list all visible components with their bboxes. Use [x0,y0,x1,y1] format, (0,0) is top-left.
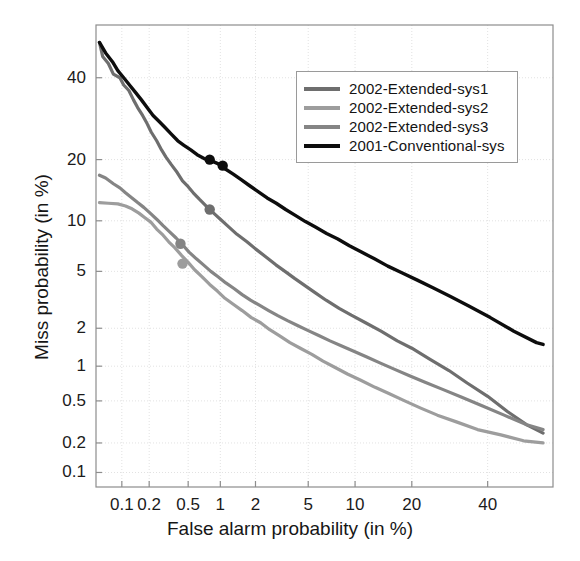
x-tick-label: 20 [402,495,421,515]
legend-item: 2001-Conventional-sys [304,136,509,155]
legend: 2002-Extended-sys1 2002-Extended-sys2 20… [296,71,518,163]
legend-swatch-sys2 [304,106,340,110]
marker-2002-Extended-sys1 [204,204,214,214]
x-tick-label: 5 [303,495,312,515]
legend-item: 2002-Extended-sys2 [304,98,509,117]
marker-2002-Extended-sys2 [177,258,187,268]
legend-swatch-sys3 [304,125,340,129]
y-tick-label: 0.1 [40,462,86,482]
x-tick-label: 10 [346,495,365,515]
legend-item: 2002-Extended-sys3 [304,117,509,136]
legend-label-sys3: 2002-Extended-sys3 [349,118,488,135]
x-axis-title: False alarm probability (in %) [0,518,580,540]
y-tick-label: 40 [40,68,86,88]
legend-label-sys2: 2002-Extended-sys2 [349,99,488,116]
legend-swatch-sys1 [304,87,340,91]
marker-2002-Extended-sys3 [175,239,185,249]
legend-label-conventional: 2001-Conventional-sys [349,137,505,154]
x-tick-label: 1 [216,495,225,515]
x-tick-label: 2 [251,495,260,515]
det-curve-figure: 0.10.20.51251020404020105210.50.20.1 Fal… [0,0,580,561]
y-axis-title: Miss probability (in %) [31,117,53,417]
y-tick-label: 0.2 [40,433,86,453]
curve-2002-Extended-sys3 [99,175,543,429]
legend-item: 2002-Extended-sys1 [304,79,509,98]
curve-2002-Extended-sys2 [99,203,543,443]
x-tick-label: 0.5 [176,495,200,515]
legend-swatch-conventional [304,144,340,148]
x-tick-label: 40 [478,495,497,515]
x-tick-label: 0.2 [137,495,161,515]
legend-label-sys1: 2002-Extended-sys1 [349,80,488,97]
marker-2001-Conventional-sys [218,160,228,170]
marker-2001-Conventional-sys [204,154,214,164]
x-tick-label: 0.1 [110,495,134,515]
